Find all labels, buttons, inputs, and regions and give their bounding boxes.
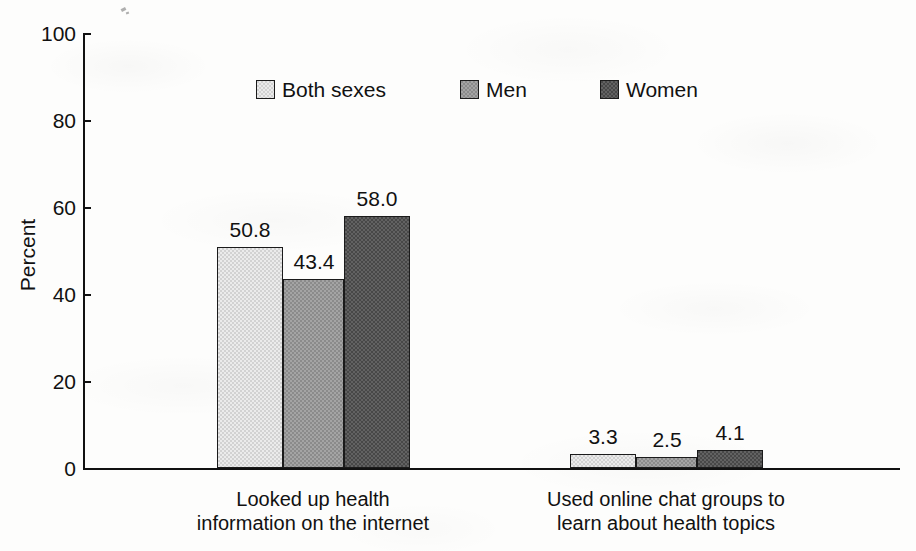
legend-label-both-sexes: Both sexes xyxy=(282,79,386,100)
legend-item-both-sexes[interactable]: Both sexes xyxy=(256,79,386,100)
category-label-group1-line2: information on the internet xyxy=(163,511,463,535)
legend-item-men[interactable]: Men xyxy=(460,79,527,100)
bar-group2-both-sexes[interactable] xyxy=(570,454,636,468)
category-label-group1-line1: Looked up health xyxy=(163,487,463,511)
category-label-group2-line2: learn about health topics xyxy=(516,511,816,535)
bar-group2-men[interactable] xyxy=(636,457,697,468)
bar-value-group1-men: 43.4 xyxy=(274,251,354,272)
legend-label-men: Men xyxy=(486,79,527,100)
legend-item-women[interactable]: Women xyxy=(600,79,698,100)
category-label-group1: Looked up health information on the inte… xyxy=(163,487,463,535)
legend-swatch-both-sexes-icon xyxy=(256,80,275,99)
category-label-group2-line1: Used online chat groups to xyxy=(516,487,816,511)
y-tick-20 xyxy=(83,381,91,383)
y-tick-60 xyxy=(83,207,91,209)
legend: Both sexes Men Women xyxy=(0,0,916,120)
y-axis-title: Percent xyxy=(16,185,40,325)
bar-group2-women[interactable] xyxy=(697,450,763,468)
x-axis-line xyxy=(83,468,900,470)
bar-group1-both-sexes[interactable] xyxy=(217,247,283,468)
category-label-group2: Used online chat groups to learn about h… xyxy=(516,487,816,535)
legend-label-women: Women xyxy=(626,79,698,100)
bar-value-group1-women: 58.0 xyxy=(337,188,417,209)
bar-value-group1-both-sexes: 50.8 xyxy=(210,219,290,240)
bar-value-group2-women: 4.1 xyxy=(690,422,770,443)
bar-group1-men[interactable] xyxy=(283,279,344,468)
bar-chart-figure: 100 80 60 40 20 0 Percent Both sexes Men… xyxy=(0,0,916,551)
y-tick-label-0: 0 xyxy=(18,458,76,479)
y-tick-80 xyxy=(83,120,91,122)
y-tick-40 xyxy=(83,294,91,296)
y-tick-0 xyxy=(83,468,91,470)
legend-swatch-men-icon xyxy=(460,80,479,99)
y-tick-label-20: 20 xyxy=(18,371,76,392)
legend-swatch-women-icon xyxy=(600,80,619,99)
